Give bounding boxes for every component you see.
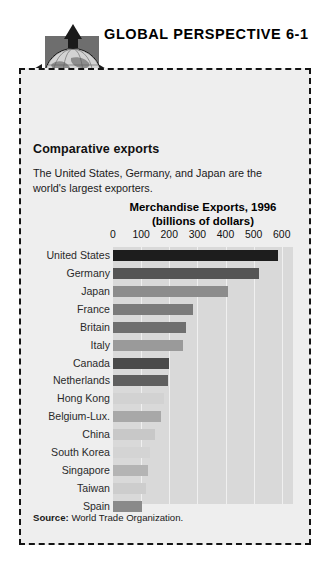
panel-blurb: The United States, Germany, and Japan ar… [33,166,288,195]
category-labels: United StatesGermanyJapanFranceBritainIt… [25,247,110,504]
bar [113,483,146,494]
bar [113,322,186,333]
bar-series [113,247,293,504]
bar-row [113,408,293,426]
bar [113,429,155,440]
category-label: Belgium-Lux. [25,408,110,426]
category-label: Germany [25,265,110,283]
category-label: Italy [25,337,110,355]
bar-row [113,301,293,319]
bar [113,411,161,422]
bar-row [113,372,293,390]
global-perspective-figure: GLOBAL PERSPECTIVE 6-1 Comparative expor… [0,0,333,569]
category-label: United States [25,247,110,265]
bar [113,501,142,512]
chart-plot-area [113,247,293,504]
bar-row [113,319,293,337]
x-axis-tick: 600 [273,229,290,240]
bar-row [113,390,293,408]
bar-row [113,444,293,462]
bar [113,447,150,458]
category-label: Netherlands [25,372,110,390]
x-axis-tick: 100 [132,229,149,240]
category-label: Singapore [25,462,110,480]
bar [113,250,278,261]
category-label: Taiwan [25,480,110,498]
page-title: GLOBAL PERSPECTIVE 6-1 [104,26,309,42]
category-label: Hong Kong [25,390,110,408]
x-axis-tick: 200 [161,229,178,240]
x-axis-tick-labels: 0100200300400500600 [109,229,295,242]
category-label: Britain [25,319,110,337]
category-label: South Korea [25,444,110,462]
chart-title-line-2: (billions of dollars) [108,215,298,229]
bar-row [113,265,293,283]
source-text: World Trade Organization. [71,512,183,523]
bar-row [113,247,293,265]
chart-title: Merchandise Exports, 1996 (billions of d… [108,201,298,228]
category-label: China [25,426,110,444]
bar [113,393,164,404]
category-label: Japan [25,283,110,301]
bar-row [113,462,293,480]
bar-row [113,337,293,355]
chart-title-line-1: Merchandise Exports, 1996 [108,201,298,215]
bar [113,358,169,369]
bar [113,465,148,476]
x-axis-tick: 500 [245,229,262,240]
bar-row [113,480,293,498]
panel-heading: Comparative exports [33,142,159,156]
bar [113,268,259,279]
bar-row [113,283,293,301]
x-axis-tick: 0 [110,229,116,240]
x-axis-tick: 300 [189,229,206,240]
category-label: France [25,301,110,319]
bar-row [113,426,293,444]
category-label: Canada [25,355,110,373]
arrow-up-icon [64,24,82,39]
bar [113,340,183,351]
bar [113,304,193,315]
source-label: Source: [33,512,69,523]
x-axis-tick: 400 [217,229,234,240]
bar-row [113,355,293,373]
bar [113,286,228,297]
bar [113,375,168,386]
source-note: Source: World Trade Organization. [33,512,183,523]
